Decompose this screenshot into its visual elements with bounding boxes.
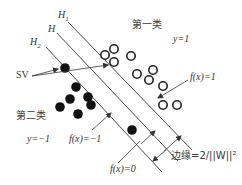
class2-label: 第二类 bbox=[16, 111, 46, 121]
class2-y-label: y=−1 bbox=[27, 134, 50, 144]
label-h1: H1 bbox=[58, 10, 69, 23]
f-zero-pointer bbox=[118, 141, 140, 163]
class1-points bbox=[101, 45, 181, 109]
f-neg-label: f(x)=−1 bbox=[69, 134, 101, 144]
sv-label: SV bbox=[16, 70, 29, 80]
f-zero-label: f(x)=0 bbox=[110, 164, 136, 174]
f-pos-label: f(x)=1 bbox=[190, 72, 216, 82]
margin-label: 边缘=2/||W||² bbox=[171, 151, 236, 161]
class1-label: 第一类 bbox=[132, 20, 162, 30]
label-h2: H2 bbox=[30, 37, 41, 50]
label-h: H bbox=[48, 24, 55, 34]
f-neg-pointer bbox=[92, 113, 111, 130]
class1-y-label: y=1 bbox=[173, 34, 189, 44]
